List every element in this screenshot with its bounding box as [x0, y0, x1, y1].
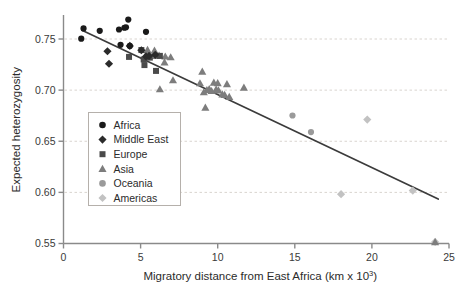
y-tick-label-0.70: 0.70	[35, 84, 56, 96]
x-tick-label-15: 15	[289, 251, 301, 263]
y-tick-label-0.65: 0.65	[35, 135, 56, 147]
y-tick-label-0.75: 0.75	[35, 33, 56, 45]
x-tick-label-25: 25	[443, 251, 455, 263]
y-tick-label-0.60: 0.60	[35, 186, 56, 198]
x-tick-label-0: 0	[61, 251, 67, 263]
point-europe	[141, 62, 147, 68]
point-africa	[78, 36, 84, 42]
point-europe	[126, 54, 132, 60]
point-oceania	[289, 112, 295, 118]
x-tick-label-5: 5	[138, 251, 144, 263]
x-tick-label-10: 10	[212, 251, 224, 263]
legend-label-americas: Americas	[114, 192, 158, 204]
point-africa	[116, 26, 122, 32]
legend-label-europe: Europe	[114, 148, 148, 160]
point-africa	[97, 28, 103, 34]
legend-label-oceania: Oceania	[114, 177, 153, 189]
scatter-plot-figure: 0510152025 0.550.600.650.700.75 AfricaMi…	[0, 0, 461, 292]
legend-marker-oceania	[99, 180, 106, 187]
x-tick-label-20: 20	[366, 251, 378, 263]
legend-marker-africa	[99, 122, 106, 129]
x-axis-title: Migratory distance from East Africa (km …	[143, 269, 377, 283]
legend-label-asia: Asia	[114, 163, 135, 175]
y-axis-title: Expected heterozygosity	[10, 67, 22, 193]
legend-label-middle-east: Middle East	[114, 133, 169, 145]
y-tick-label-0.55: 0.55	[35, 237, 56, 249]
chart-canvas: 0510152025 0.550.600.650.700.75 AfricaMi…	[0, 0, 461, 292]
chart-background	[0, 0, 461, 292]
point-africa	[143, 29, 149, 35]
point-africa	[123, 24, 129, 30]
point-europe	[153, 68, 159, 74]
point-oceania	[308, 129, 314, 135]
point-africa	[80, 25, 86, 31]
legend-marker-europe	[100, 151, 106, 157]
legend: AfricaMiddle EastEuropeAsiaOceaniaAmeric…	[89, 113, 181, 206]
point-africa	[125, 16, 131, 22]
legend-label-africa: Africa	[114, 119, 141, 131]
point-africa	[117, 42, 123, 48]
point-africa	[127, 43, 133, 49]
